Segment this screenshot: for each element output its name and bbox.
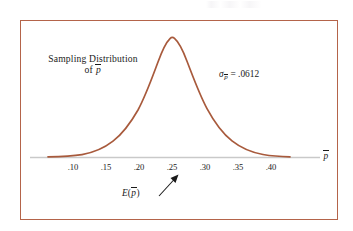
x-tick-label-5: .30	[192, 162, 218, 172]
figure-root: Sampling Distribution of p σp = .0612 .1…	[0, 0, 353, 231]
standard-error-label: σp = .0612	[219, 69, 259, 82]
sigma-subscript-p-bar: p	[224, 74, 228, 82]
distribution-label-line1: Sampling Distribution	[48, 53, 138, 64]
sampling-distribution-label: Sampling Distribution of p	[34, 54, 152, 75]
x-tick-label-7: .40	[258, 162, 284, 172]
plot-area	[0, 0, 353, 231]
sigma-equals-sign: =	[230, 69, 235, 79]
p-bar-symbol: p	[95, 65, 101, 76]
sigma-value: .0612	[238, 69, 259, 79]
x-tick-label-3: .20	[126, 162, 152, 172]
x-axis-variable-label: p	[323, 151, 329, 162]
axis-p-bar-symbol: p	[323, 151, 329, 162]
x-tick-label-1: .10	[60, 162, 86, 172]
distribution-label-of: of	[85, 64, 93, 75]
expected-value-label: E(p)	[122, 188, 140, 199]
x-tick-label-6: .35	[225, 162, 251, 172]
distribution-label-line2: of p	[34, 65, 152, 76]
x-tick-label-2: .15	[93, 162, 119, 172]
expected-value-p-bar: p	[131, 188, 137, 199]
expected-value-close-paren: )	[137, 188, 140, 198]
x-tick-label-4: .25	[159, 162, 185, 172]
